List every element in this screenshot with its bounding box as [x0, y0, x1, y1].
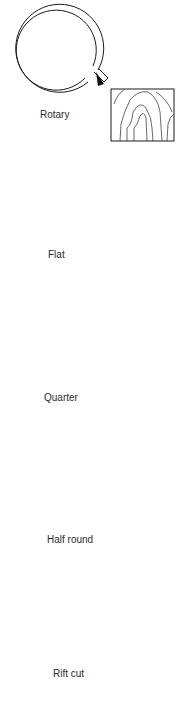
- label-rift-cut: Rift cut: [53, 668, 84, 679]
- veneer-cut-diagram: [0, 0, 192, 705]
- rotary-grain-sample: [111, 89, 174, 141]
- rotary-log-inner: [16, 10, 96, 90]
- label-half-round: Half round: [47, 534, 93, 545]
- rotary-log-diagram: [16, 4, 108, 92]
- label-quarter: Quarter: [44, 392, 78, 403]
- label-rotary: Rotary: [40, 109, 69, 120]
- knife-icon: [96, 72, 104, 86]
- label-flat: Flat: [48, 249, 65, 260]
